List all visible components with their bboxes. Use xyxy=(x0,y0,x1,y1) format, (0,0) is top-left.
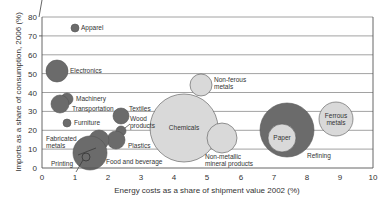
svg-text:Plastics: Plastics xyxy=(128,142,151,149)
bubble-chart: 0 10 20 30 40 50 60 70 80 0 1 2 3 4 5 6 … xyxy=(0,0,391,202)
svg-text:metals: metals xyxy=(326,119,346,126)
x-axis-title: Energy costs as a share of shipment valu… xyxy=(114,186,300,195)
svg-text:6: 6 xyxy=(239,173,244,182)
svg-text:5: 5 xyxy=(205,173,210,182)
svg-text:Non-metallic: Non-metallic xyxy=(205,153,242,160)
svg-text:Chemicals: Chemicals xyxy=(169,124,200,131)
svg-text:Wood: Wood xyxy=(130,115,147,122)
svg-text:3: 3 xyxy=(139,173,144,182)
svg-text:0: 0 xyxy=(33,164,38,173)
bubble-non-metallic xyxy=(207,123,237,153)
svg-text:50: 50 xyxy=(28,70,37,79)
svg-text:4: 4 xyxy=(172,173,177,182)
svg-text:Electronics: Electronics xyxy=(70,67,103,74)
svg-text:40: 40 xyxy=(28,89,37,98)
svg-text:60: 60 xyxy=(28,51,37,60)
svg-text:Fabricated: Fabricated xyxy=(46,135,77,142)
svg-text:metals: metals xyxy=(214,83,234,90)
bubble-apparel xyxy=(71,24,79,32)
bubble-furniture xyxy=(63,119,71,127)
svg-text:30: 30 xyxy=(28,107,37,116)
svg-text:Paper: Paper xyxy=(273,134,291,142)
svg-text:mineral products: mineral products xyxy=(205,160,254,168)
svg-text:Ferrous: Ferrous xyxy=(325,112,348,119)
svg-text:10: 10 xyxy=(28,145,37,154)
bubble-transportation xyxy=(51,95,69,113)
svg-text:metals: metals xyxy=(46,142,66,149)
bubble-non-ferous-metals xyxy=(190,74,212,96)
bubble-electronics xyxy=(46,60,68,82)
svg-text:9: 9 xyxy=(338,173,343,182)
svg-text:Printing: Printing xyxy=(51,160,73,168)
svg-text:8: 8 xyxy=(305,173,310,182)
bubble-plastics xyxy=(107,131,125,149)
y-axis-title: Imports as a share of consumption, 2006 … xyxy=(14,12,23,172)
svg-text:7: 7 xyxy=(272,173,277,182)
svg-text:2: 2 xyxy=(106,173,111,182)
svg-text:0: 0 xyxy=(40,173,45,182)
svg-text:10: 10 xyxy=(369,173,378,182)
svg-text:Refining: Refining xyxy=(307,152,331,160)
svg-text:Textiles: Textiles xyxy=(129,105,151,112)
svg-text:70: 70 xyxy=(28,32,37,41)
svg-text:Machinery: Machinery xyxy=(76,95,107,103)
bubble-food-beverage xyxy=(73,136,107,170)
svg-text:80: 80 xyxy=(28,13,37,22)
x-tick-labels: 0 1 2 3 4 5 6 7 8 9 10 xyxy=(40,173,378,182)
y-tick-labels: 0 10 20 30 40 50 60 70 80 xyxy=(28,13,37,173)
svg-text:Transportation: Transportation xyxy=(72,105,114,113)
svg-text:Furniture: Furniture xyxy=(74,119,100,126)
bubble-textiles xyxy=(113,108,129,124)
svg-text:20: 20 xyxy=(28,126,37,135)
svg-text:1: 1 xyxy=(73,173,78,182)
svg-text:Apparel: Apparel xyxy=(81,24,104,32)
svg-text:Food and beverage: Food and beverage xyxy=(106,158,163,166)
svg-text:Non-ferous: Non-ferous xyxy=(214,76,247,83)
svg-text:products: products xyxy=(130,122,156,130)
